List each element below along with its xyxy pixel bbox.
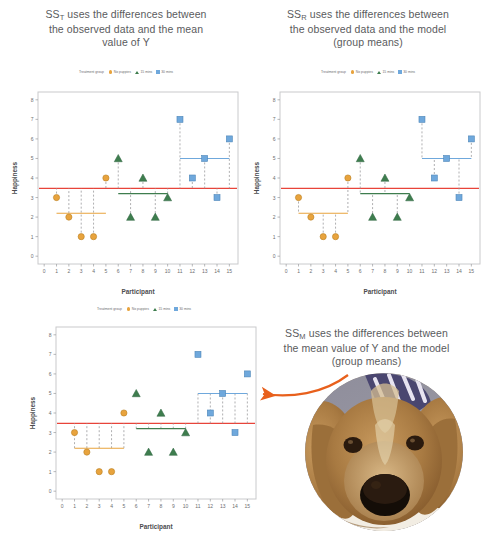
y-tick-label: 2 (31, 214, 34, 220)
caption-ssr-subscript: R (301, 13, 307, 22)
x-tick-label: 12 (190, 268, 196, 274)
circle-marker (90, 234, 96, 240)
y-tick-label: 2 (49, 449, 52, 455)
dog-photo (305, 373, 463, 531)
legend-item-15-mins: 15 mins (377, 70, 394, 74)
circle-marker-icon (127, 307, 130, 310)
x-tick-label: 6 (135, 503, 138, 509)
circle-marker (53, 194, 59, 200)
y-axis-label: Happiness (29, 396, 37, 429)
plot-ssm-svg: 0123456780123456789101112131415Participa… (26, 319, 262, 533)
legend-item-30-mins: 30 mins (156, 70, 173, 74)
square-marker (189, 175, 195, 181)
caption-sst-rest: uses the differences between (64, 8, 206, 20)
y-tick-label: 0 (49, 488, 52, 494)
y-tick-label: 1 (31, 234, 34, 240)
legend-title: Treatment group (79, 70, 104, 74)
x-tick-label: 15 (227, 268, 233, 274)
legend-label-30-mins: 30 mins (161, 70, 173, 74)
y-tick-label: 1 (49, 469, 52, 475)
square-marker (232, 430, 238, 436)
x-tick-label: 5 (347, 268, 350, 274)
x-tick-label: 14 (232, 503, 238, 509)
y-tick-label: 7 (49, 351, 52, 357)
legend-ssm: Treatment group No puppies 15 mins 30 mi… (26, 307, 262, 311)
square-marker (456, 195, 462, 201)
x-tick-label: 1 (55, 268, 58, 274)
x-tick-label: 4 (92, 268, 95, 274)
circle-marker (332, 234, 338, 240)
x-tick-label: 3 (322, 268, 325, 274)
legend-label-15-mins: 15 mins (382, 70, 394, 74)
caption-ssr-prefix: SS (287, 8, 301, 20)
x-tick-label: 2 (85, 503, 88, 509)
square-marker (195, 351, 201, 357)
x-tick-label: 8 (384, 268, 387, 274)
legend-item-no-puppies: No puppies (127, 307, 149, 311)
x-tick-label: 4 (334, 268, 337, 274)
square-marker (244, 371, 250, 377)
square-marker (202, 155, 208, 161)
y-tick-label: 3 (31, 195, 34, 201)
caption-ssm-prefix: SS (285, 327, 299, 339)
caption-ssm-line2: the mean value of Y and the model (243, 342, 490, 356)
x-tick-label: 3 (98, 503, 101, 509)
y-tick-label: 5 (273, 155, 276, 161)
caption-sst-prefix: SS (45, 8, 59, 20)
x-tick-label: 7 (371, 268, 374, 274)
x-tick-label: 15 (469, 268, 475, 274)
x-tick-label: 15 (245, 503, 251, 509)
square-marker (468, 136, 474, 142)
caption-ssr: SSR uses the differences between the obs… (250, 8, 486, 50)
x-tick-label: 3 (80, 268, 83, 274)
x-tick-label: 2 (67, 268, 70, 274)
x-tick-label: 6 (359, 268, 362, 274)
y-tick-label: 4 (31, 175, 34, 181)
plot-ssr-svg: 0123456780123456789101112131415Participa… (250, 84, 486, 298)
x-tick-label: 12 (432, 268, 438, 274)
y-axis-label: Happiness (253, 161, 261, 194)
x-tick-label: 8 (142, 268, 145, 274)
legend-item-15-mins: 15 mins (153, 307, 170, 311)
plot-sst: 0123456780123456789101112131415Participa… (8, 84, 244, 298)
x-tick-label: 10 (165, 268, 171, 274)
plot-ssm: 0123456780123456789101112131415Participa… (26, 319, 262, 533)
y-tick-label: 7 (273, 116, 276, 122)
x-tick-label: 5 (105, 268, 108, 274)
circle-marker (345, 175, 351, 181)
dog-photo-image (305, 373, 463, 531)
y-tick-label: 3 (49, 430, 52, 436)
plot-frame (56, 327, 256, 499)
legend-label-no-puppies: No puppies (132, 307, 149, 311)
y-tick-label: 0 (31, 253, 34, 259)
legend-label-no-puppies: No puppies (114, 70, 131, 74)
circle-marker (96, 469, 102, 475)
legend-ssr: Treatment group No puppies 15 mins 30 mi… (250, 70, 486, 74)
caption-ssr-line2: the observed data and the model (250, 23, 486, 37)
y-tick-label: 8 (31, 97, 34, 103)
legend-item-no-puppies: No puppies (109, 70, 131, 74)
square-marker-icon (174, 307, 177, 310)
x-tick-label: 6 (117, 268, 120, 274)
x-tick-label: 11 (195, 503, 200, 509)
legend-label-30-mins: 30 mins (179, 307, 191, 311)
caption-ssr-rest: uses the differences between (307, 8, 449, 20)
y-tick-label: 4 (273, 175, 276, 181)
square-marker (431, 175, 437, 181)
caption-sst: SST uses the differences between the obs… (8, 8, 244, 50)
x-tick-label: 10 (407, 268, 413, 274)
circle-marker-icon (109, 70, 112, 73)
legend-title: Treatment group (97, 307, 122, 311)
y-tick-label: 6 (49, 371, 52, 377)
panel-ssm: Treatment group No puppies 15 mins 30 mi… (26, 302, 262, 534)
plot-frame (38, 92, 238, 264)
triangle-marker-icon (377, 71, 381, 74)
triangle-marker-icon (135, 71, 139, 74)
circle-marker (320, 234, 326, 240)
x-tick-label: 1 (73, 503, 76, 509)
x-axis-label: Participant (121, 288, 155, 296)
y-tick-label: 3 (273, 195, 276, 201)
square-marker (220, 390, 226, 396)
legend-label-no-puppies: No puppies (356, 70, 373, 74)
y-tick-label: 8 (49, 332, 52, 338)
